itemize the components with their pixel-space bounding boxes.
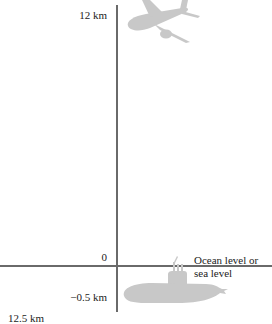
label-12-km: 12 km	[79, 9, 107, 21]
bottom-cut-label: 12.5 km	[8, 312, 44, 324]
submarine-icon	[122, 256, 230, 306]
airplane-icon	[124, 0, 204, 44]
label-negative-half-km: −0.5 km	[70, 291, 107, 303]
label-zero: 0	[102, 251, 108, 263]
